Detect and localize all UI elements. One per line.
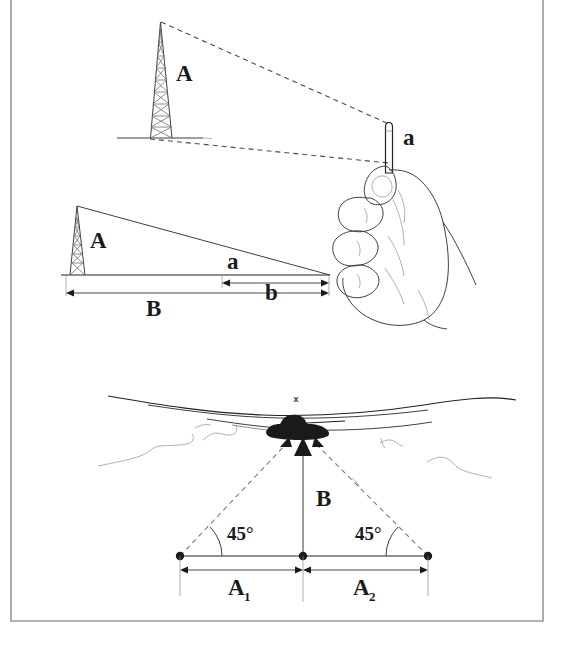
baseline-A1-label: A 1 (228, 575, 251, 604)
target-mark-label: x (293, 394, 298, 404)
tower-ground-line (117, 138, 212, 139)
range-line-B (294, 437, 312, 556)
baseline-A1-subscript: 1 (244, 589, 251, 604)
baseline-A2-subscript: 2 (369, 589, 376, 604)
figure-border (11, 0, 543, 621)
distance-B-label: B (146, 296, 161, 321)
dimension-A2 (303, 567, 428, 574)
range-B-label: B (316, 486, 331, 511)
triangle-stick-height-label: a (227, 249, 239, 274)
stick-height-label: a (403, 125, 415, 150)
baseline-A1-main: A (228, 575, 245, 600)
baseline-A2-main: A (353, 575, 370, 600)
baseline-A2-label: A 2 (353, 575, 376, 604)
tower-height-label: A (176, 61, 193, 86)
measuring-stick-icon (386, 123, 393, 174)
lattice-tower-small-icon (70, 206, 85, 275)
lattice-tower-icon (151, 22, 173, 138)
forty-five-degree-triangulation-panel: x B (98, 394, 516, 604)
dimension-B-lower (66, 290, 329, 297)
sight-lines-group (150, 22, 389, 163)
baseline-group (176, 552, 432, 560)
hand-illustration (333, 166, 476, 329)
similar-triangles-panel: A a b B (61, 206, 330, 321)
terrain-contours-left (98, 425, 237, 466)
dimension-A1 (180, 567, 303, 574)
angle-arc-left (210, 527, 222, 556)
angle-right-label: 45° (355, 523, 382, 544)
angle-left-label: 45° (227, 523, 254, 544)
sight-line-upper (161, 22, 389, 124)
technical-diagram: A a (0, 0, 575, 646)
triangle-tower-height-label: A (90, 228, 107, 253)
terrain-contours-right (352, 438, 492, 487)
figure-page: A a (0, 0, 575, 646)
angle-arc-right (386, 527, 398, 556)
sight-line-lower (150, 139, 389, 163)
distance-b-label: b (265, 280, 278, 305)
triangle-hypotenuse (77, 206, 330, 275)
